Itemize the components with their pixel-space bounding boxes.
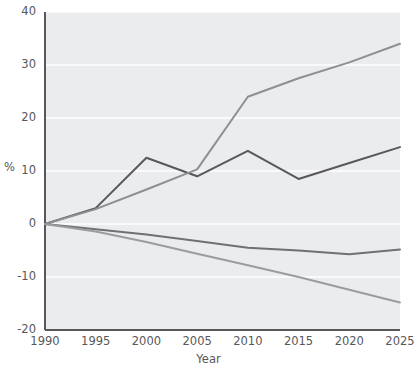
plot-panel xyxy=(45,12,400,330)
plot-svg xyxy=(0,0,417,372)
x-tick-label: 2020 xyxy=(326,334,372,348)
x-tick-label: 2015 xyxy=(276,334,322,348)
y-tick-label: 30 xyxy=(2,57,36,71)
x-tick-label: 1990 xyxy=(22,334,68,348)
x-tick-label: 2025 xyxy=(377,334,417,348)
y-tick-label: -10 xyxy=(2,269,36,283)
line-chart: 403020100-10-20 199019952000200520102015… xyxy=(0,0,417,372)
y-tick-label: 0 xyxy=(2,216,36,230)
x-tick-label: 1995 xyxy=(73,334,119,348)
x-tick-label: 2010 xyxy=(225,334,271,348)
y-axis-label: % xyxy=(4,160,15,174)
x-tick-label: 2000 xyxy=(123,334,169,348)
y-tick-label: 20 xyxy=(2,110,36,124)
x-axis-label: Year xyxy=(0,352,417,366)
x-tick-label: 2005 xyxy=(174,334,220,348)
y-tick-label: 40 xyxy=(2,4,36,18)
